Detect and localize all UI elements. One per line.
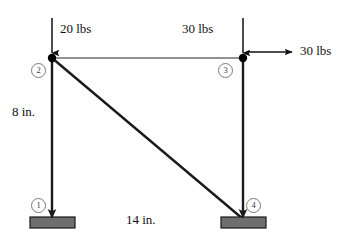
- dimension-label-height: 8 in.: [12, 105, 35, 118]
- structural-members: [52, 58, 243, 219]
- diagram-canvas: [0, 0, 352, 244]
- support-plate-node-1: [30, 217, 75, 228]
- load-label-horizontal-node-3: 30 lbs: [300, 44, 331, 57]
- joint-marker-node-3: [239, 54, 247, 62]
- node-label-2: 2: [31, 63, 46, 78]
- joint-marker-node-2: [48, 54, 56, 62]
- frame-diagram: 20 lbs 30 lbs 30 lbs 8 in. 14 in. 2 3 1 …: [0, 0, 352, 244]
- load-label-vertical-node-2: 20 lbs: [60, 22, 91, 35]
- load-label-vertical-node-3: 30 lbs: [182, 22, 213, 35]
- member-diagonal-brace: [52, 58, 243, 219]
- node-label-4: 4: [246, 198, 261, 213]
- support-plate-node-4: [221, 217, 266, 228]
- node-label-1: 1: [31, 198, 46, 213]
- node-label-3: 3: [218, 63, 233, 78]
- dimension-label-span: 14 in.: [126, 213, 156, 226]
